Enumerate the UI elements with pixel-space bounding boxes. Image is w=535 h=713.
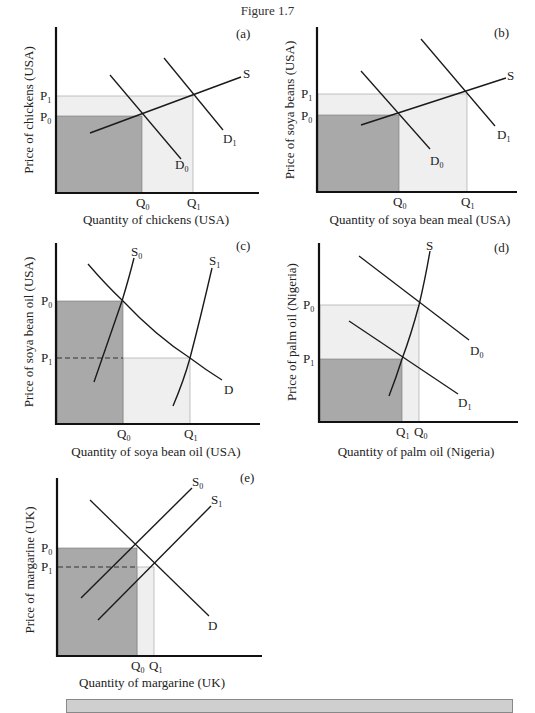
p1-label-e: P1 <box>41 559 52 576</box>
panel-e: (e) S0 S1 D P0 P1 Q0 Q1 Quantity of marg… <box>22 470 262 690</box>
s1-label-c: S1 <box>209 253 220 270</box>
q1-label-d: Q1 <box>396 424 409 441</box>
y-axis-label-d: Price of palm oil (Nigeria) <box>284 263 299 401</box>
caption-box <box>66 699 513 713</box>
p1-label-d: P1 <box>303 351 314 368</box>
d0-label-d: D0 <box>470 343 483 360</box>
p0-label-c: P0 <box>41 293 52 310</box>
shade-dark-b <box>318 115 399 192</box>
d1-label-a: D1 <box>223 131 236 148</box>
s1-label-e: S1 <box>211 492 222 509</box>
panel-tag-d: (d) <box>494 240 509 255</box>
x-axis-label-e: Quantity of margarine (UK) <box>79 675 225 690</box>
q0-label-b: Q0 <box>393 194 406 211</box>
y-axis-label-e: Price of margarine (UK) <box>22 506 37 633</box>
x-axis-label-b: Quantity of soya bean meal (USA) <box>330 212 511 227</box>
panel-tag-a: (a) <box>236 26 250 41</box>
shade-light-e <box>137 567 154 656</box>
d-label-e: D <box>208 618 217 633</box>
panel-tag-e: (e) <box>240 470 254 485</box>
d-label-c: D <box>224 382 233 397</box>
p0-label-b: P0 <box>301 108 312 125</box>
d1-label-b: D1 <box>497 127 510 144</box>
d1-label-d: D1 <box>458 395 471 412</box>
shade-dark-e <box>58 548 137 656</box>
p1-label-c: P1 <box>41 350 52 367</box>
y-axis-label-a: Price of chickens (USA) <box>21 46 36 173</box>
q0-label-c: Q0 <box>117 426 130 443</box>
panel-d: (d) S D0 D1 P0 P1 Q1 Q0 Quantity of palm… <box>284 238 518 459</box>
shade-dark-c <box>57 301 123 424</box>
panel-tag-c: (c) <box>236 238 250 253</box>
q1-label-b: Q1 <box>461 194 474 211</box>
y-axis-label-c: Price of soya bean oil (USA) <box>21 257 36 408</box>
x-axis-label-d: Quantity of palm oil (Nigeria) <box>338 444 495 459</box>
panel-b: (b) S D1 D0 P1 P0 Q0 Q1 Quantity of soya… <box>282 25 517 227</box>
p1-label-b: P1 <box>301 86 312 103</box>
shade-light-c <box>123 358 190 424</box>
supply-label-b: S <box>507 68 514 83</box>
shade-dark-d <box>320 359 402 422</box>
q1-label-a: Q1 <box>187 195 200 212</box>
q0-label-d: Q0 <box>414 424 427 441</box>
q1-label-c: Q1 <box>184 426 197 443</box>
q1-label-e: Q1 <box>149 658 162 675</box>
shade-dark-a <box>56 116 142 193</box>
supply-label-a: S <box>243 66 250 81</box>
p0-label-a: P0 <box>40 109 51 126</box>
s0-label-e: S0 <box>192 474 203 491</box>
x-axis-label-c: Quantity of soya bean oil (USA) <box>71 444 240 459</box>
x-axis-label-a: Quantity of chickens (USA) <box>83 212 229 227</box>
panel-a: (a) S D1 D0 P1 P0 Q0 Q1 Quantity of chic… <box>21 26 259 227</box>
q0-label-a: Q0 <box>136 195 149 212</box>
y-axis-label-b: Price of soya beans (USA) <box>282 41 297 180</box>
q0-label-e: Q0 <box>131 658 144 675</box>
panel-c: (c) S0 S1 D P0 P1 Q0 Q1 Quantity of soya… <box>21 238 260 459</box>
panel-tag-b: (b) <box>494 25 509 40</box>
p0-label-e: P0 <box>41 540 52 557</box>
s0-label-c: S0 <box>131 244 142 261</box>
p0-label-d: P0 <box>303 297 314 314</box>
p1-label-a: P1 <box>40 88 51 105</box>
supply-label-d: S <box>426 238 433 253</box>
